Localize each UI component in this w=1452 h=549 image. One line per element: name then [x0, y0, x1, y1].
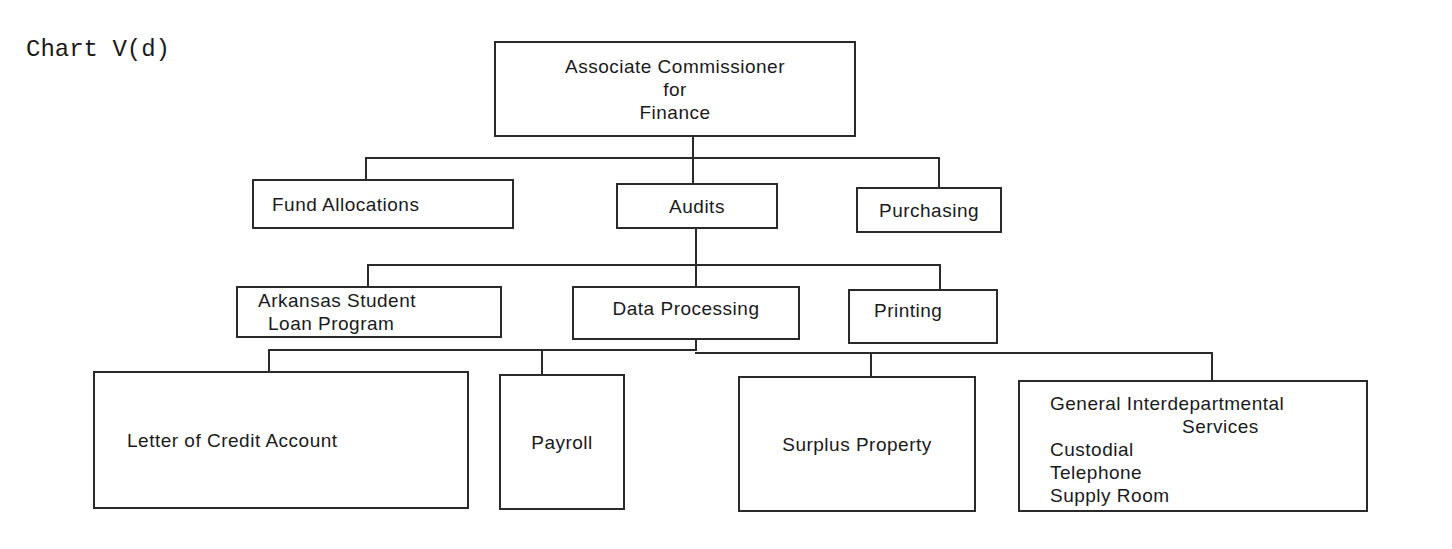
chart-caption: Chart V(d)	[26, 36, 170, 63]
node-purchasing: Purchasing	[856, 187, 1002, 233]
node-label-line: Associate Commissioner	[565, 55, 785, 78]
connector	[692, 137, 694, 159]
node-label: Payroll	[531, 431, 593, 454]
node-label-line: Arkansas Student	[258, 289, 416, 312]
node-title-line: General Interdepartmental	[1050, 392, 1366, 415]
node-audits: Audits	[616, 183, 778, 229]
node-sub-item: Custodial	[1050, 438, 1366, 461]
node-letter-of-credit-account: Letter of Credit Account	[93, 371, 469, 509]
node-label-line: for	[663, 78, 687, 101]
node-label: Fund Allocations	[272, 193, 419, 216]
connector	[367, 264, 369, 288]
node-arkansas-student-loan-program: Arkansas Student Loan Program	[236, 286, 502, 338]
connector	[939, 264, 941, 290]
node-associate-commissioner: Associate Commissioner for Finance	[494, 41, 856, 137]
connector	[541, 349, 543, 375]
node-sub-item: Supply Room	[1050, 484, 1366, 507]
connector	[367, 264, 941, 266]
node-label: Audits	[669, 195, 725, 218]
node-general-interdepartmental-services: General Interdepartmental Services Custo…	[1018, 380, 1368, 512]
node-data-processing: Data Processing	[572, 286, 800, 340]
node-label: Surplus Property	[782, 433, 932, 456]
connector	[695, 229, 697, 266]
node-fund-allocations: Fund Allocations	[252, 179, 514, 229]
node-surplus-property: Surplus Property	[738, 376, 976, 512]
connector	[1211, 352, 1213, 382]
node-label: Purchasing	[879, 199, 979, 222]
node-label: Printing	[874, 299, 942, 322]
connector	[870, 352, 872, 378]
connector	[938, 157, 940, 187]
node-label: Data Processing	[613, 297, 760, 320]
connector	[365, 157, 940, 159]
node-label-line: Loan Program	[258, 312, 394, 335]
connector	[268, 349, 270, 373]
node-title-line: Services	[1050, 415, 1366, 438]
node-label: Letter of Credit Account	[127, 429, 338, 452]
node-printing: Printing	[848, 289, 998, 344]
connector	[365, 157, 367, 181]
node-sub-item: Telephone	[1050, 461, 1366, 484]
node-payroll: Payroll	[499, 374, 625, 510]
connector	[268, 349, 696, 351]
node-label-line: Finance	[639, 101, 710, 124]
connector	[695, 264, 697, 288]
connector	[695, 352, 1213, 354]
connector	[692, 157, 694, 183]
